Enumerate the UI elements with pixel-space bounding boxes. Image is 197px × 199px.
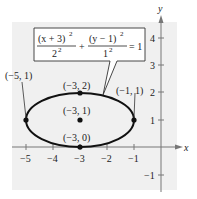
y-tick-label: 4	[150, 33, 155, 44]
x-tick-label: −2	[101, 153, 112, 164]
y-tick-label: −1	[144, 170, 155, 181]
y-tick-label: 2	[150, 87, 155, 98]
eq-term2-numerator: (y − 1)	[89, 33, 116, 45]
eq-term2-num-exp: 2	[120, 30, 124, 38]
point-label: (−1, 1)	[116, 85, 143, 97]
point-vertex-left	[23, 117, 28, 122]
eq-equals: = 1	[129, 41, 142, 52]
point-label: (−3, 0)	[63, 132, 90, 144]
y-tick-label: 3	[150, 60, 155, 71]
eq-term2-den-exp: 2	[109, 46, 113, 54]
point-label: (−3, 1)	[63, 105, 90, 117]
y-tick-label: 1	[150, 115, 155, 126]
point-label: (−3, 2)	[63, 80, 90, 92]
point-covertex-top	[77, 90, 82, 95]
x-tick-label: −3	[74, 153, 85, 164]
eq-term2-denominator: 1	[103, 48, 108, 59]
eq-term1-num-exp: 2	[69, 30, 73, 38]
y-axis-label: y	[157, 3, 163, 14]
x-axis-arrow-icon	[175, 145, 183, 150]
x-axis-label: x	[183, 142, 189, 153]
point-vertex-right	[131, 117, 136, 122]
ellipse-graph: x y −5 −4 −3 −2 −1 4 3 2 1 −1 (−5, 1) (−…	[0, 0, 197, 199]
eq-term1-numerator: (x + 3)	[38, 33, 65, 45]
eq-plus: +	[79, 41, 85, 52]
x-tick-label: −5	[20, 153, 31, 164]
y-axis-arrow-icon	[159, 15, 164, 23]
point-covertex-bottom	[77, 144, 82, 149]
x-tick-label: −1	[128, 153, 139, 164]
point-label: (−5, 1)	[5, 70, 32, 82]
point-center	[77, 117, 82, 122]
eq-term1-denominator: 2	[52, 48, 57, 59]
x-tick-label: −4	[47, 153, 58, 164]
eq-term1-den-exp: 2	[58, 46, 62, 54]
